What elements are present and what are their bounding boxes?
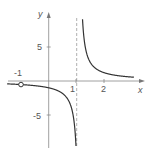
x-axis-label: x [137, 85, 143, 95]
x-axis-arrow-icon [139, 79, 145, 83]
tick-label-neg1: -1 [14, 68, 22, 78]
y-axis-arrow-icon [47, 12, 51, 18]
y-axis-label: y [37, 9, 43, 19]
curve-left-branch [7, 84, 76, 146]
tick-label-5: 5 [37, 42, 42, 52]
open-circle-hole [19, 82, 24, 87]
curve-right-branch [83, 19, 134, 77]
function-graph: y x -1 1 2 5 -5 [0, 0, 149, 153]
tick-label-1: 1 [70, 84, 75, 94]
tick-label-neg5: -5 [33, 111, 41, 121]
tick-label-2: 2 [101, 84, 106, 94]
